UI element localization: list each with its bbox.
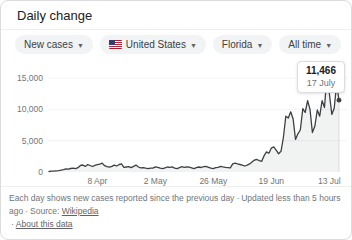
svg-text:15,000: 15,000 bbox=[17, 73, 43, 83]
svg-text:8 Apr: 8 Apr bbox=[87, 176, 107, 186]
filter-chip-metric[interactable]: New cases ▼ bbox=[15, 35, 93, 54]
daily-change-chart[interactable]: 05,00010,00015,0008 Apr2 May26 May19 Jun… bbox=[1, 58, 351, 186]
card-footer: Each day shows new cases reported since … bbox=[1, 186, 351, 220]
footer-description: Each day shows new cases reported since … bbox=[9, 193, 234, 203]
footer-line-1: Each day shows new cases reported since … bbox=[9, 192, 343, 218]
filter-chip-country[interactable]: United States ▼ bbox=[100, 35, 206, 54]
svg-text:5,000: 5,000 bbox=[22, 136, 44, 146]
filter-chip-region-label: Florida bbox=[222, 39, 253, 50]
footer-line-2: ·About this data bbox=[9, 218, 343, 221]
us-flag-icon bbox=[109, 40, 122, 49]
filter-chip-metric-label: New cases bbox=[24, 39, 73, 50]
svg-text:13 Jul: 13 Jul bbox=[318, 176, 341, 186]
page-title: Daily change bbox=[17, 8, 92, 23]
svg-text:0: 0 bbox=[38, 167, 43, 177]
svg-text:19 Jun: 19 Jun bbox=[259, 176, 285, 186]
svg-text:26 May: 26 May bbox=[199, 176, 228, 186]
footer-separator: · bbox=[23, 206, 30, 216]
chevron-down-icon: ▼ bbox=[325, 42, 332, 49]
filter-chip-region[interactable]: Florida ▼ bbox=[213, 35, 273, 54]
svg-text:10,000: 10,000 bbox=[17, 104, 43, 114]
card-header: Daily change bbox=[1, 1, 351, 30]
filter-chip-time-range[interactable]: All time ▼ bbox=[279, 35, 341, 54]
chevron-down-icon: ▼ bbox=[77, 42, 84, 49]
tooltip-date: 17 July bbox=[306, 78, 336, 89]
chart-tooltip: 11,466 17 July bbox=[297, 61, 345, 93]
footer-separator: · bbox=[9, 219, 16, 221]
chevron-down-icon: ▼ bbox=[190, 42, 197, 49]
footer-source-label: Source: bbox=[30, 206, 59, 216]
filter-chip-country-label: United States bbox=[126, 39, 186, 50]
source-link[interactable]: Wikipedia bbox=[62, 206, 99, 216]
svg-text:2 May: 2 May bbox=[144, 176, 168, 186]
tooltip-value: 11,466 bbox=[306, 64, 336, 78]
filter-chip-row: New cases ▼ United States ▼ Florida ▼ Al… bbox=[1, 30, 351, 58]
daily-change-card: Daily change New cases ▼ United States ▼… bbox=[0, 0, 352, 220]
chevron-down-icon: ▼ bbox=[256, 42, 263, 49]
about-this-data-link[interactable]: About this data bbox=[16, 219, 73, 221]
filter-chip-time-range-label: All time bbox=[288, 39, 321, 50]
